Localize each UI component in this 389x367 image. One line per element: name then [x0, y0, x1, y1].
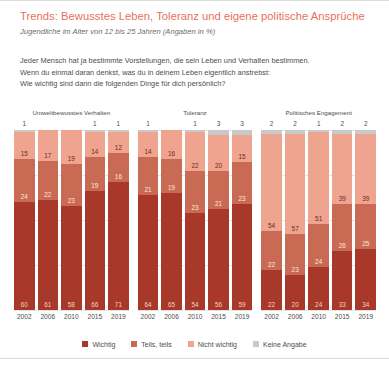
- keine-angabe-value: 3: [232, 118, 253, 129]
- bar-column[interactable]: 222354: [185, 130, 206, 310]
- bar-segment-value: 39: [355, 195, 376, 203]
- bar-segment: 15: [232, 135, 253, 162]
- bar-segment-value: 26: [332, 242, 353, 250]
- bar-segment-value: 34: [355, 301, 376, 309]
- bar-segment: 20: [208, 135, 229, 171]
- chart-page: Trends: Bewusstes Leben, Toleranz und ei…: [0, 0, 389, 367]
- bar-segment: 39: [355, 134, 376, 204]
- keine-angabe-value: [38, 118, 59, 129]
- bar-segment-value: 23: [285, 266, 306, 274]
- bar-segment: 25: [355, 204, 376, 249]
- bar-column[interactable]: 392633: [332, 130, 353, 310]
- bar-segment: 66: [85, 191, 106, 310]
- bar-column[interactable]: 161965: [161, 130, 182, 310]
- bar-column[interactable]: 141966: [85, 130, 106, 310]
- x-axis-tick: 2015: [332, 311, 353, 323]
- legend-item[interactable]: Nicht wichtig: [188, 341, 237, 348]
- bar-segment: 58: [61, 206, 82, 310]
- legend-item[interactable]: Keine Angabe: [253, 341, 307, 348]
- bar-segment: 51: [308, 132, 329, 224]
- bar-segment: 22: [261, 231, 282, 271]
- keine-angabe-value: 1: [108, 118, 129, 129]
- bar-column[interactable]: 152359: [232, 130, 253, 310]
- panel-title: Toleranz: [138, 108, 253, 117]
- legend-item[interactable]: Wichtig: [82, 341, 115, 348]
- x-axis-tick: 2015: [208, 311, 229, 323]
- bar-segment: 54: [261, 134, 282, 231]
- bar-segment: 21: [138, 157, 159, 195]
- bar-segment-value: 64: [138, 301, 159, 309]
- bar-segment-value: 15: [232, 153, 253, 161]
- bar-segment: 71: [108, 182, 129, 310]
- bar-segment: 14: [138, 132, 159, 157]
- keine-angabe-value: 1: [185, 118, 206, 129]
- bar-segment-value: 51: [308, 215, 329, 223]
- question-line-1: Jeder Mensch hat ja bestimmte Vorstellun…: [20, 55, 375, 67]
- bar-segment-value: 58: [61, 301, 82, 309]
- keine-angabe-value: 3: [208, 118, 229, 129]
- legend-item[interactable]: Teils, teils: [131, 341, 171, 348]
- legend-swatch-icon: [188, 341, 194, 347]
- chart-legend: WichtigTeils, teilsNicht wichtigKeine An…: [0, 337, 389, 351]
- bar-segment: 24: [308, 224, 329, 267]
- bar-column[interactable]: 172261: [38, 130, 59, 310]
- x-axis-tick: 2002: [14, 311, 35, 323]
- bar-segment-value: 22: [261, 261, 282, 269]
- bar-column[interactable]: 392534: [355, 130, 376, 310]
- bar-segment-value: 24: [308, 301, 329, 309]
- bar-segment: 24: [14, 159, 35, 202]
- bar-segment-value: 15: [14, 150, 35, 158]
- legend-swatch-icon: [131, 341, 137, 347]
- bar-segment: 14: [85, 132, 106, 157]
- bar-segment-value: 60: [14, 301, 35, 309]
- keine-angabe-value: 2: [355, 118, 376, 129]
- chart-panels: Umweltbewusstes Verhalten111152460172261…: [14, 108, 376, 323]
- bar-segment-value: 23: [232, 195, 253, 203]
- bar-column[interactable]: 202156: [208, 130, 229, 310]
- bar-segment-value: 54: [185, 301, 206, 309]
- x-axis-tick: 2010: [308, 311, 329, 323]
- bar-column[interactable]: 152460: [14, 130, 35, 310]
- bar-segment: 22: [185, 132, 206, 172]
- bar-segment: 16: [161, 130, 182, 159]
- chart-header: Trends: Bewusstes Leben, Toleranz und ei…: [20, 10, 375, 36]
- bar-segment-value: 24: [14, 193, 35, 201]
- bar-segment: 24: [308, 267, 329, 310]
- bar-segment-value: 20: [208, 162, 229, 170]
- keine-angabe-values: 22122: [261, 118, 376, 129]
- keine-angabe-value: 2: [285, 118, 306, 129]
- bar-segment: 19: [85, 157, 106, 191]
- top-divider: [0, 0, 389, 1]
- x-axis-tick: 2006: [38, 311, 59, 323]
- bar-column[interactable]: 542222: [261, 130, 282, 310]
- bar-segment-value: 20: [285, 301, 306, 309]
- bar-segment-value: 22: [38, 191, 59, 199]
- bar-segment: 26: [332, 204, 353, 251]
- keine-angabe-value: [161, 118, 182, 129]
- x-axis-tick: 2019: [232, 311, 253, 323]
- bar-segment: 39: [332, 134, 353, 204]
- keine-angabe-values: 1133: [138, 118, 253, 129]
- bar-segment-value: 19: [161, 184, 182, 192]
- x-axis-tick: 2019: [355, 311, 376, 323]
- bar-segment: 61: [38, 200, 59, 310]
- panel-title: Politisches Engagement: [261, 108, 376, 117]
- bar-column[interactable]: 121671: [108, 130, 129, 310]
- bar-segment: 56: [208, 209, 229, 310]
- bar-segment: 54: [185, 213, 206, 310]
- bar-segment-value: 71: [108, 301, 129, 309]
- bar-segment-value: 19: [85, 182, 106, 190]
- bar-segment: 20: [285, 275, 306, 310]
- bar-column[interactable]: 572320: [285, 130, 306, 310]
- keine-angabe-value: 1: [14, 118, 35, 129]
- keine-angabe-value: 1: [308, 118, 329, 129]
- x-axis-tick: 2010: [185, 311, 206, 323]
- keine-angabe-value: 2: [332, 118, 353, 129]
- bar-column[interactable]: 512424: [308, 130, 329, 310]
- bar-column[interactable]: 142164: [138, 130, 159, 310]
- legend-label: Keine Angabe: [263, 341, 307, 348]
- x-axis-tick: 2015: [85, 311, 106, 323]
- bottom-divider: [0, 358, 389, 359]
- bar-column[interactable]: 192358: [61, 130, 82, 310]
- question-line-2: Wenn du einmal daran denkst, was du in d…: [20, 67, 375, 79]
